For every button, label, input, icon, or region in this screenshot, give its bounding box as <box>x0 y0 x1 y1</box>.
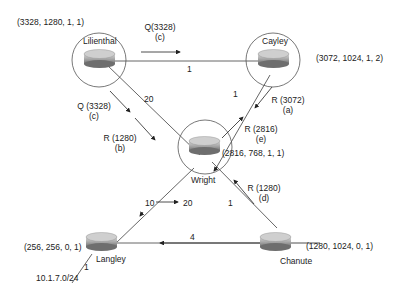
router-lilienthal-icon <box>84 50 115 69</box>
metric-lilienthal-wright: 20 <box>144 94 153 104</box>
message-q-left: Q (3328) (c) <box>74 101 114 121</box>
router-cayley-icon <box>258 50 289 69</box>
arrow-on-wright-langley <box>140 212 143 216</box>
metric-change-to: 20 <box>183 198 192 208</box>
metric-cayley-wright: 1 <box>233 89 238 99</box>
metric-langley-chanute: 4 <box>190 232 195 242</box>
router-langley-icon <box>86 233 117 252</box>
router-name-chanute: Chanute <box>280 256 312 266</box>
diagram-canvas: Lilienthal Cayley Wright Langley Chanute… <box>0 0 394 292</box>
tuple-langley: (256, 256, 0, 1) <box>24 242 82 252</box>
message-step: (a) <box>268 105 308 115</box>
router-name-wright: Wright <box>191 175 215 185</box>
message-step: (c) <box>138 32 182 42</box>
message-step: (d) <box>244 193 284 203</box>
message-text: Q(3328) <box>138 22 182 32</box>
router-name-cayley: Cayley <box>262 36 288 46</box>
message-step: (b) <box>100 143 140 153</box>
message-step: (e) <box>241 134 281 144</box>
message-text: R (3072) <box>268 95 308 105</box>
tuple-wright: (2816, 768, 1, 1) <box>222 148 284 158</box>
router-name-lilienthal: Lilienthal <box>83 36 117 46</box>
tuple-cayley: (3072, 1024, 1, 2) <box>316 53 383 63</box>
arrow-on-cayley-wright <box>214 167 217 171</box>
metric-change-from: 10 <box>145 198 154 208</box>
message-text: R (1280) <box>100 133 140 143</box>
router-name-langley: Langley <box>96 254 126 264</box>
message-q-top: Q(3328) (c) <box>138 22 182 42</box>
metric-wright-chanute: 1 <box>228 198 233 208</box>
tuple-chanute: (1280, 1024, 0, 1) <box>306 241 373 251</box>
network-label: 10.1.7.0/24 <box>36 273 79 283</box>
message-text: R (1280) <box>244 183 284 193</box>
tuple-lilienthal: (3328, 1280, 1, 1) <box>17 17 84 27</box>
router-wright-icon <box>189 137 220 156</box>
router-chanute-icon <box>260 233 291 252</box>
message-r-e: R (2816) (e) <box>241 124 281 144</box>
message-text: Q (3328) <box>74 101 114 111</box>
metric-lilienthal-cayley: 1 <box>187 64 192 74</box>
message-r-d: R (1280) (d) <box>244 183 284 203</box>
message-r-a: R (3072) (a) <box>268 95 308 115</box>
metric-langley-stub: 1 <box>84 262 89 272</box>
message-r-b: R (1280) (b) <box>100 133 140 153</box>
message-step: (c) <box>74 111 114 121</box>
message-text: R (2816) <box>241 124 281 134</box>
